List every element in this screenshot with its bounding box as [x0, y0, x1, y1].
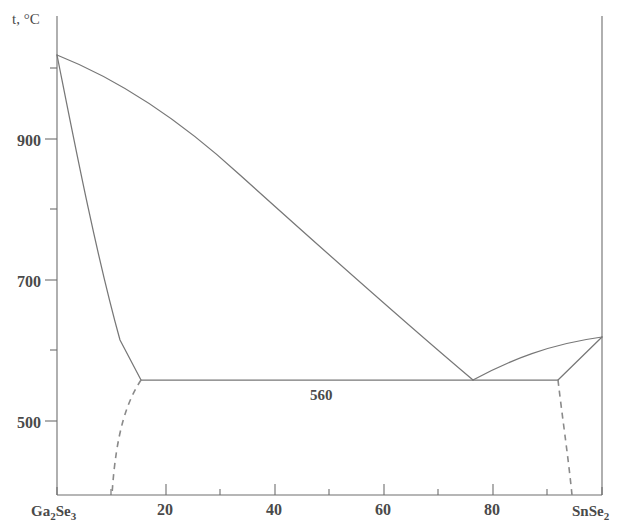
- x-axis-right-component-label: SnSe2: [572, 503, 610, 521]
- liquidus-curve-left: [57, 55, 473, 380]
- right-component-main: SnSe: [572, 503, 604, 519]
- eutectic-temperature-label: 560: [310, 387, 333, 403]
- phase-diagram-figure: t, °C 900 700 500 20 40 60 80 Ga2Se3 SnS…: [0, 0, 626, 521]
- phase-diagram-svg: t, °C 900 700 500 20 40 60 80 Ga2Se3 SnS…: [0, 0, 626, 521]
- left-component-sub2: 3: [71, 510, 77, 521]
- x-axis-left-component-label: Ga2Se3: [31, 503, 77, 521]
- y-tick-label-500: 500: [17, 414, 41, 431]
- solvus-dashed-right: [558, 380, 572, 495]
- solidus-curve-left: [57, 55, 141, 380]
- liquidus-curve-right: [473, 337, 602, 380]
- solvus-dashed-left: [112, 380, 141, 495]
- y-axis-title: t, °C: [12, 11, 40, 27]
- left-component-main: Ga: [31, 503, 51, 519]
- y-tick-label-700: 700: [17, 273, 41, 290]
- x-tick-label-60: 60: [375, 501, 391, 518]
- x-tick-label-20: 20: [157, 501, 173, 518]
- y-tick-label-900: 900: [17, 132, 41, 149]
- left-component-mid: Se: [56, 503, 71, 519]
- x-tick-label-80: 80: [484, 501, 500, 518]
- x-tick-label-40: 40: [266, 501, 282, 518]
- right-component-sub: 2: [604, 510, 610, 521]
